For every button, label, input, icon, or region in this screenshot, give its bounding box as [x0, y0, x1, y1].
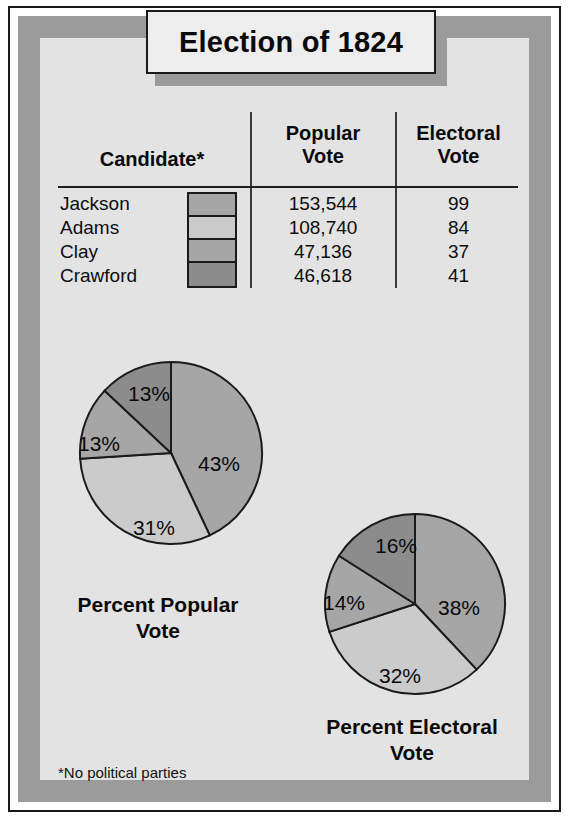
pie-electoral-label-clay: 14% — [323, 592, 365, 613]
table-row: Clay — [60, 242, 190, 262]
table-column-divider-2 — [395, 112, 397, 288]
pie-popular-label-clay: 13% — [78, 433, 120, 454]
pie-popular-label-adams: 31% — [133, 517, 175, 538]
table-row: 153,544 — [254, 194, 392, 214]
legend-swatch-clay — [189, 240, 235, 263]
table-row: 99 — [399, 194, 518, 214]
pie-electoral-caption: Percent Electoral Vote — [288, 714, 536, 766]
pie-popular-label-jackson: 43% — [198, 453, 240, 474]
legend-swatch-stack — [187, 192, 237, 288]
table-header-electoral-line1: Electoral — [399, 122, 518, 145]
pie-electoral-label-jackson: 38% — [438, 597, 480, 618]
table-row: Jackson — [60, 194, 190, 214]
pie-electoral-label-adams: 32% — [379, 665, 421, 686]
legend-swatch-crawford — [189, 263, 235, 286]
table-row: Crawford — [60, 266, 190, 286]
pie-popular-caption-line1: Percent Popular — [48, 592, 268, 618]
table-header-popular-vote: Popular Vote — [254, 122, 392, 168]
legend-swatch-adams — [189, 217, 235, 240]
table-row: 41 — [399, 266, 518, 286]
legend-swatch-jackson — [189, 194, 235, 217]
table-row: 37 — [399, 242, 518, 262]
page-title: Election of 1824 — [179, 26, 403, 59]
table-row: 46,618 — [254, 266, 392, 286]
pie-electoral-caption-line2: Vote — [288, 740, 536, 766]
table-header-candidate: Candidate* — [58, 148, 246, 171]
table-header-electoral-line2: Vote — [399, 145, 518, 168]
pie-electoral-caption-line1: Percent Electoral — [288, 714, 536, 740]
table-header-electoral-vote: Electoral Vote — [399, 122, 518, 168]
table-row: 84 — [399, 218, 518, 238]
table-header-rule — [58, 186, 518, 188]
table-row: Adams — [60, 218, 190, 238]
pie-popular-label-crawford: 13% — [128, 383, 170, 404]
pie-electoral-label-crawford: 16% — [375, 535, 417, 556]
election-1824-figure: Election of 1824 Candidate* Popular Vote… — [0, 0, 575, 824]
title-plate: Election of 1824 — [146, 10, 436, 74]
table-column-divider-1 — [250, 112, 252, 288]
table-header-popular-line2: Vote — [254, 145, 392, 168]
table-row: 108,740 — [254, 218, 392, 238]
pie-popular-caption-line2: Vote — [48, 618, 268, 644]
table-row: 47,136 — [254, 242, 392, 262]
figure-footnote: *No political parties — [58, 764, 186, 781]
table-header-popular-line1: Popular — [254, 122, 392, 145]
results-table: Candidate* Popular Vote Electoral Vote J… — [58, 104, 518, 286]
pie-popular-caption: Percent Popular Vote — [48, 592, 268, 644]
